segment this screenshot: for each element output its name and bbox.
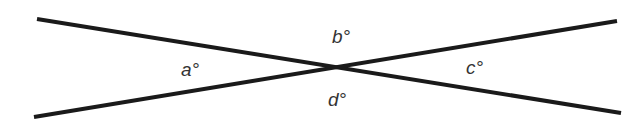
angle-label-c: c° bbox=[466, 57, 484, 78]
angle-label-b: b° bbox=[332, 26, 351, 47]
diagram-canvas: a° b° c° d° bbox=[0, 0, 641, 130]
line-2 bbox=[34, 21, 617, 117]
angle-label-d: d° bbox=[328, 89, 347, 110]
angle-label-a: a° bbox=[181, 59, 200, 80]
